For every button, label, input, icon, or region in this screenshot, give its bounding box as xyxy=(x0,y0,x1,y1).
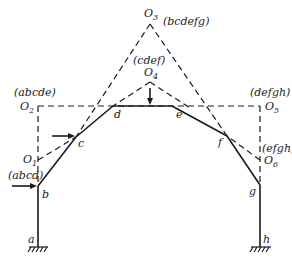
arrowhead-b xyxy=(30,183,37,189)
svg-text:O4: O4 xyxy=(144,66,158,81)
dash-O1-c xyxy=(38,137,76,160)
dashed-lines xyxy=(38,24,260,186)
center-O6: O6 (efgh) xyxy=(262,142,292,169)
member-bc xyxy=(38,137,76,186)
svg-text:O6: O6 xyxy=(264,154,278,169)
label-e: e xyxy=(176,108,183,121)
group-O2: (abcde) xyxy=(14,86,56,99)
group-O3: (bcdefg) xyxy=(163,15,209,28)
dash-O3-c xyxy=(76,24,150,137)
group-O6: (efgh) xyxy=(262,142,292,155)
dash-O4-e xyxy=(150,82,190,108)
center-O2: O2 (abcde) xyxy=(14,86,56,115)
label-f: f xyxy=(217,136,224,149)
dash-O4-d xyxy=(113,82,150,106)
label-c: c xyxy=(78,137,84,150)
label-b: b xyxy=(42,188,49,201)
label-h: h xyxy=(263,233,270,246)
member-cd xyxy=(76,106,113,137)
frame-diagram: a b c d e f g h O1 (abcd) O2 (abcde) O3 … xyxy=(0,0,292,264)
label-d: d xyxy=(114,108,121,121)
svg-text:O1: O1 xyxy=(23,153,37,168)
label-a: a xyxy=(28,233,35,246)
group-O5: (defgh) xyxy=(250,86,290,99)
dash-O6-f xyxy=(227,136,260,160)
center-O4: O4 (cdef) xyxy=(133,54,165,81)
frame-members xyxy=(38,106,260,247)
svg-text:O2: O2 xyxy=(20,100,34,115)
group-O1: (abcd) xyxy=(8,169,43,182)
group-O4: (cdef) xyxy=(133,54,165,67)
svg-text:O3: O3 xyxy=(144,7,158,22)
center-O3: O3 (bcdefg) xyxy=(144,7,209,28)
label-g: g xyxy=(249,185,256,198)
center-O5: O5 (defgh) xyxy=(250,86,290,115)
svg-text:O5: O5 xyxy=(265,100,279,115)
supports xyxy=(28,247,271,252)
arrowhead-top xyxy=(147,98,153,105)
dash-O3-f xyxy=(150,24,227,136)
member-fg xyxy=(227,136,260,185)
